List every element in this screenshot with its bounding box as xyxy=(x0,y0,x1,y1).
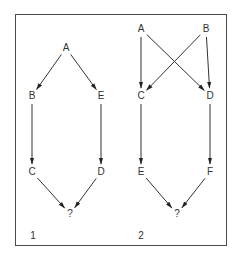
node-d-panel-2: D xyxy=(206,91,213,101)
node-a-panel-1: A xyxy=(63,43,70,53)
arrow-a-to-d xyxy=(147,35,205,91)
node-c-panel-1: C xyxy=(28,167,35,177)
arrow-b-to-d xyxy=(206,37,209,88)
node-q-panel-2: ? xyxy=(174,209,180,219)
node-c-panel-2: C xyxy=(137,91,144,101)
node-d-panel-1: D xyxy=(97,167,104,177)
arrow-e-to-q xyxy=(146,178,172,208)
node-b-panel-1: B xyxy=(29,91,36,101)
arrow-f-to-q xyxy=(182,178,205,207)
node-a-panel-2: A xyxy=(138,24,145,34)
arrow-a-to-e xyxy=(71,54,97,89)
node-f-panel-2: F xyxy=(207,167,213,177)
node-e-panel-2: E xyxy=(138,167,145,177)
edges-layer xyxy=(0,0,237,261)
node-e-panel-1: E xyxy=(98,91,105,101)
arrow-d-to-q xyxy=(75,178,96,207)
node-q-panel-1: ? xyxy=(67,209,73,219)
panel-number-2: 2 xyxy=(138,231,144,241)
arrow-c-to-q xyxy=(37,178,64,208)
node-b-panel-2: B xyxy=(203,24,210,34)
arrow-b-to-c xyxy=(147,35,201,91)
arrow-a-to-b xyxy=(37,55,62,90)
panel-number-1: 1 xyxy=(30,231,36,241)
